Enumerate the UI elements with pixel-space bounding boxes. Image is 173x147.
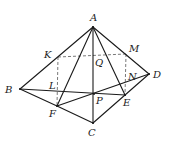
segment-FC [57,106,93,123]
point-labels: ABCDEFKLMNPQ [4,12,161,138]
geometry-diagram: ABCDEFKLMNPQ [0,0,173,147]
label-A: A [89,12,97,23]
label-L: L [48,80,56,91]
label-N: N [127,71,138,82]
label-P: P [95,95,103,106]
vertex-P [93,93,95,95]
vertex-A [92,26,94,28]
dashed-segment-KM [58,54,126,57]
segment-BF [20,89,57,106]
label-K: K [43,49,52,60]
vertex-E [124,94,126,96]
label-D: D [152,69,161,80]
label-E: E [122,97,131,108]
segment-BE [20,89,125,95]
label-B: B [4,84,12,95]
dashed-segment-KF [57,57,58,106]
vertex-D [148,73,150,75]
dashed-lines [57,54,126,106]
vertex-F [56,105,58,107]
label-Q: Q [95,57,103,68]
label-M: M [128,43,140,54]
dashed-segment-ME [125,54,126,95]
vertex-C [92,122,94,124]
segment-AF [57,27,93,106]
label-F: F [48,108,57,119]
label-C: C [88,127,96,138]
segment-AB [20,27,93,89]
vertex-B [19,88,21,90]
